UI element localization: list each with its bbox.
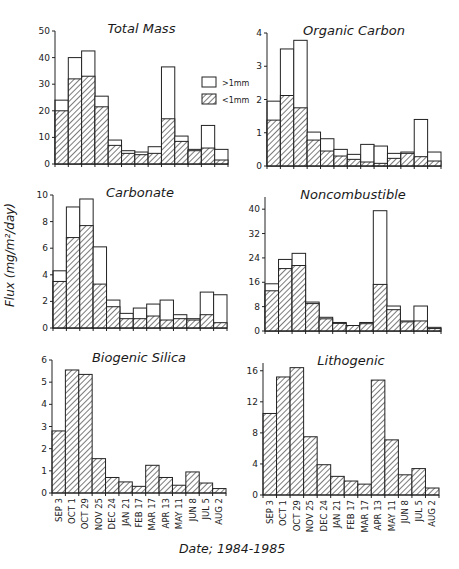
x-tick-label: MAY 11 [387, 500, 397, 531]
bar-fine-fraction [55, 111, 68, 164]
bar-fine-fraction [414, 321, 428, 331]
bar-fine-fraction [344, 481, 358, 495]
legend-label-coarse: >1mm [222, 79, 250, 88]
x-tick-label: OCT 29 [292, 500, 302, 531]
bar-fine-fraction [160, 320, 173, 328]
bar-fine-fraction [146, 465, 159, 493]
y-tick-label: 16 [247, 366, 259, 376]
bar-fine-fraction [213, 489, 226, 493]
bar-fine-fraction [65, 370, 78, 493]
panel-noncombustible: Noncombustible0816243240 [249, 187, 441, 336]
bar-fine-fraction [358, 484, 372, 495]
bar-fine-fraction [279, 269, 293, 331]
legend-swatch-coarse [202, 77, 216, 87]
bar-fine-fraction [319, 319, 333, 331]
x-tick-label: OCT 1 [67, 498, 77, 524]
x-tick-label: FEB 17 [346, 500, 356, 530]
bar-fine-fraction [120, 319, 133, 328]
y-tick-label: 0 [41, 488, 47, 498]
x-tick-label: APR 13 [161, 498, 171, 528]
bar-fine-fraction [107, 307, 120, 328]
y-tick-label: 40 [249, 204, 261, 214]
bar-fine-fraction [173, 319, 186, 328]
y-tick-label: 1 [256, 128, 262, 138]
legend-swatch-fine [202, 94, 216, 104]
bar-fine-fraction [161, 119, 174, 164]
bar-fine-fraction [267, 120, 280, 166]
x-tick-label: MAR 17 [147, 498, 157, 531]
x-tick-label: AUG 2 [427, 500, 437, 527]
bar-fine-fraction [373, 284, 387, 331]
bar-fine-fraction [265, 291, 279, 331]
legend: >1mm <1mm [202, 77, 250, 105]
x-tick-label: DEC 24 [319, 500, 329, 531]
bar-fine-fraction [400, 322, 414, 331]
bar-fine-fraction [346, 326, 360, 331]
bar-fine-fraction [92, 459, 105, 493]
x-tick-label: JUL 5 [201, 498, 211, 521]
bar-fine-fraction [371, 380, 385, 495]
bar-fine-fraction [201, 148, 214, 164]
bar-fine-fraction [119, 482, 132, 493]
bar-fine-fraction [385, 440, 399, 495]
y-tick-label: 12 [247, 397, 258, 407]
y-tick-label: 10 [39, 132, 51, 142]
panel-title: Carbonate [106, 185, 174, 200]
bar-fine-fraction [294, 108, 307, 166]
y-tick-label: 4 [41, 399, 47, 409]
y-tick-label: 6 [42, 243, 48, 253]
bar-fine-fraction [188, 151, 201, 164]
y-tick-label: 4 [256, 28, 262, 38]
panel-title: Noncombustible [300, 187, 406, 202]
bar-fine-fraction [334, 156, 347, 166]
bar-fine-fraction [387, 310, 401, 331]
x-tick-label: NOV 25 [94, 498, 104, 530]
bar-fine-fraction [53, 281, 66, 328]
bar-fine-fraction [401, 153, 414, 166]
bar-fine-fraction [106, 477, 119, 493]
bar-fine-fraction [175, 141, 188, 164]
bar-fine-fraction [66, 238, 79, 328]
bar-fine-fraction [398, 475, 412, 495]
bar-fine-fraction [52, 431, 65, 493]
y-tick-label: 2 [42, 296, 48, 306]
x-tick-label: SEP 3 [265, 500, 275, 524]
bar-fine-fraction [428, 161, 441, 166]
bar-fine-fraction [199, 483, 212, 493]
y-tick-label: 0 [252, 490, 258, 500]
x-tick-label: NOV 25 [305, 500, 315, 532]
bar-fine-fraction [321, 151, 334, 166]
flux-figure: Total Mass01020304050Organic Carbon01234… [0, 0, 459, 569]
bar-fine-fraction [187, 320, 200, 328]
x-tick-label: OCT 29 [80, 498, 90, 529]
x-tick-label: JUN 8 [400, 500, 410, 524]
y-tick-label: 0 [254, 326, 260, 336]
bar-fine-fraction [214, 323, 227, 328]
x-tick-label: OCT 1 [278, 500, 288, 526]
bar-fine-fraction [360, 324, 374, 331]
bar-fine-fraction [93, 284, 106, 328]
y-tick-label: 40 [39, 53, 51, 63]
y-tick-label: 2 [256, 95, 262, 105]
y-tick-label: 8 [252, 428, 258, 438]
bar-fine-fraction [147, 316, 160, 328]
y-tick-label: 50 [39, 26, 51, 36]
x-axis-label: Date; 1984-1985 [179, 541, 285, 556]
bar-fine-fraction [263, 413, 277, 495]
bar-fine-fraction [159, 477, 172, 493]
panel-title: Total Mass [108, 21, 176, 36]
bar-fine-fraction [132, 486, 145, 493]
panel-total-mass: Total Mass01020304050 [39, 21, 228, 169]
bar-fine-fraction [331, 476, 345, 495]
y-tick-label: 0 [42, 323, 48, 333]
bar-fine-fraction [148, 153, 161, 164]
panel-title: Organic Carbon [303, 23, 405, 38]
y-tick-label: 8 [254, 302, 260, 312]
bar-fine-fraction [333, 323, 347, 331]
bar-fine-fraction [307, 140, 320, 166]
bar-fine-fraction [200, 315, 213, 328]
bar-fine-fraction [306, 304, 320, 331]
y-tick-label: 16 [249, 277, 261, 287]
bar-fine-fraction [172, 485, 185, 493]
x-tick-label: JAN 21 [332, 500, 342, 529]
